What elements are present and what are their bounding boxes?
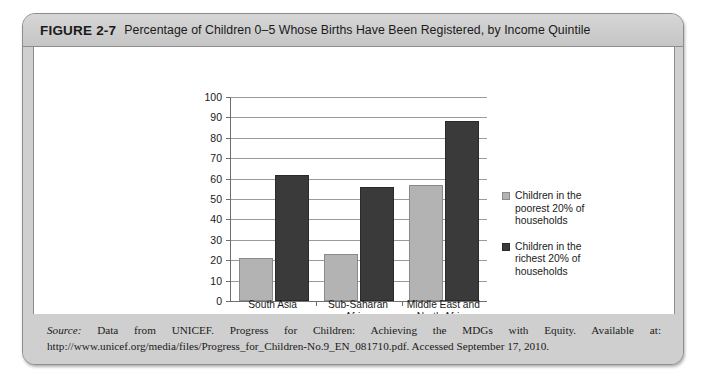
y-axis-label: 40 — [210, 213, 222, 225]
source-note: Source: Data from UNICEF. Progress for C… — [47, 323, 661, 354]
plot-area: 0102030405060708090100 — [230, 97, 487, 302]
y-axis-label: 80 — [210, 132, 222, 144]
y-axis-label: 0 — [216, 295, 222, 307]
figure-title: Percentage of Children 0–5 Whose Births … — [124, 23, 590, 37]
y-axis-tick — [226, 179, 231, 180]
gridline — [231, 97, 487, 98]
figure-number-label: FIGURE 2-7 — [40, 23, 116, 38]
bar-chart: 0102030405060708090100 South AsiaSub-Sah… — [196, 91, 488, 303]
legend-label: Children in the poorest 20% of household… — [515, 190, 612, 228]
y-axis-label: 100 — [204, 91, 222, 103]
y-axis-label: 60 — [210, 173, 222, 185]
y-axis-tick — [226, 240, 231, 241]
legend-swatch-poorest — [502, 192, 510, 200]
y-axis-tick — [226, 219, 231, 220]
legend-label: Children in the richest 20% of household… — [515, 241, 612, 279]
legend-swatch-richest — [502, 243, 510, 251]
bar-richest — [445, 121, 479, 301]
source-word: Source: — [47, 324, 81, 336]
y-axis-label: 10 — [210, 275, 222, 287]
y-axis-tick — [226, 97, 231, 98]
chart-body: 0102030405060708090100 South AsiaSub-Sah… — [33, 47, 675, 315]
legend-item: Children in the poorest 20% of household… — [502, 190, 612, 228]
figure-header: FIGURE 2-7 Percentage of Children 0–5 Wh… — [23, 14, 683, 47]
y-axis-label: 70 — [210, 152, 222, 164]
legend-item: Children in the richest 20% of household… — [502, 241, 612, 279]
y-axis-label: 90 — [210, 111, 222, 123]
bar-poorest — [409, 185, 443, 301]
bar-richest — [275, 175, 309, 301]
y-axis-label: 20 — [210, 254, 222, 266]
y-axis-tick — [226, 138, 231, 139]
figure-footer: Source: Data from UNICEF. Progress for C… — [23, 314, 683, 364]
source-body: Data from UNICEF. Progress for Children:… — [47, 324, 661, 352]
y-axis-tick — [226, 117, 231, 118]
y-axis-label: 30 — [210, 234, 222, 246]
y-axis-tick — [226, 260, 231, 261]
bar-richest — [360, 187, 394, 301]
y-axis-tick — [226, 158, 231, 159]
bar-poorest — [239, 258, 273, 301]
gridline — [231, 117, 487, 118]
chart-legend: Children in the poorest 20% of household… — [502, 190, 612, 291]
bar-poorest — [324, 254, 358, 301]
y-axis-tick — [226, 281, 231, 282]
x-axis-category-label: South Asia — [230, 299, 315, 311]
y-axis-label: 50 — [210, 193, 222, 205]
y-axis-tick — [226, 199, 231, 200]
figure-frame: FIGURE 2-7 Percentage of Children 0–5 Wh… — [22, 13, 684, 365]
